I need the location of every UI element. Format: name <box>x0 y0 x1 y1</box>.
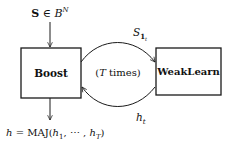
sample-arrow <box>81 43 155 63</box>
weaklearn-node: WeakLearn <box>156 48 221 95</box>
loop-text: times) <box>106 67 141 78</box>
element-of-symbol: ∈ <box>39 7 54 20</box>
set-symbol: B <box>53 7 62 20</box>
hypothesis-label: ht <box>136 111 146 126</box>
output-close-paren: ) <box>101 127 105 138</box>
input-symbol: S <box>31 7 39 20</box>
hypothesis-arrow <box>82 87 155 107</box>
hypothesis-label-sub: t <box>143 118 146 126</box>
boost-label: Boost <box>34 67 68 79</box>
sample-label-base: S <box>133 26 140 38</box>
sample-label-subsub: t <box>145 36 148 42</box>
loop-label: (T times) <box>95 67 141 78</box>
sample-label: S1t <box>133 26 148 42</box>
input-label: S ∈ BN <box>31 6 69 20</box>
boosting-diagram: S ∈ BN Boost WeakLearn S1t (T times) ht … <box>0 0 234 145</box>
output-dots: , ⋯ , <box>64 127 90 138</box>
set-superscript: N <box>62 6 70 14</box>
output-eq: = <box>12 127 27 138</box>
output-fn: MAJ <box>27 127 48 138</box>
weaklearn-label: WeakLearn <box>156 66 220 77</box>
hypothesis-label-base: h <box>136 111 143 123</box>
boost-node: Boost <box>21 48 81 98</box>
output-label: h = MAJ(h1, ⋯ , hT) <box>6 127 105 141</box>
